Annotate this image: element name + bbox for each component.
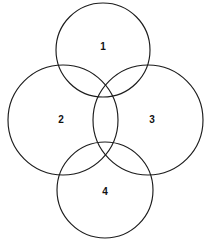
region-label-3: 3 bbox=[149, 114, 155, 125]
venn-diagram-canvas: 1 2 3 4 bbox=[0, 0, 212, 246]
region-label-1: 1 bbox=[100, 41, 106, 52]
region-label-4: 4 bbox=[102, 186, 108, 197]
venn-diagram-figure: 1 2 3 4 bbox=[0, 0, 212, 246]
region-label-2: 2 bbox=[58, 114, 64, 125]
circle-region-3 bbox=[93, 65, 203, 175]
